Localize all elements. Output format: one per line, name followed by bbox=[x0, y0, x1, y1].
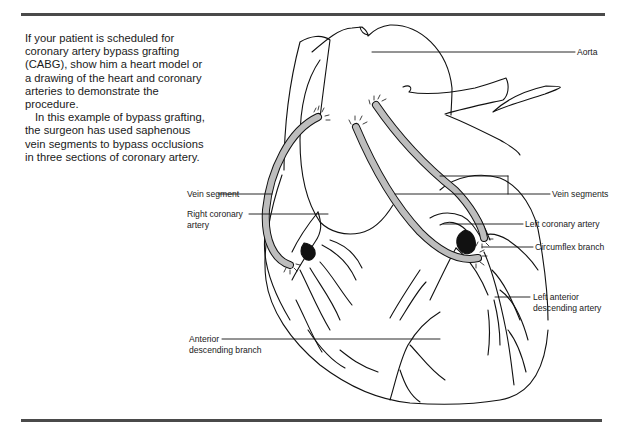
label-anterior-descending-branch-line1: Anterior bbox=[189, 334, 219, 344]
label-circumflex-branch: Circumflex branch bbox=[535, 242, 604, 252]
right-atrium bbox=[300, 60, 393, 234]
label-anterior-descending-branch-line2: descending branch bbox=[189, 345, 262, 355]
label-left-anterior-descending-line2: descending artery bbox=[533, 303, 601, 313]
label-right-coronary-artery-line1: Right coronary bbox=[187, 209, 243, 219]
pulmonary-artery bbox=[493, 86, 560, 112]
label-right-coronary-artery-line2: artery bbox=[187, 220, 209, 230]
aorta-outline bbox=[312, 25, 452, 115]
anterior-descending-branch bbox=[390, 312, 440, 400]
label-left-anterior-descending-line1: Left anterior bbox=[533, 292, 579, 302]
label-left-coronary-artery: Left coronary artery bbox=[525, 219, 600, 229]
superior-vena-cava bbox=[284, 36, 330, 170]
label-vein-segment: Vein segment bbox=[187, 189, 239, 199]
left-occlusion bbox=[457, 231, 476, 254]
vein-graft-right bbox=[266, 106, 330, 274]
label-aorta: Aorta bbox=[577, 47, 598, 57]
label-vein-segments: Vein segments bbox=[552, 189, 608, 199]
vein-graft-left bbox=[369, 95, 493, 248]
bottom-divider bbox=[21, 419, 602, 422]
heart-outline bbox=[265, 175, 548, 404]
